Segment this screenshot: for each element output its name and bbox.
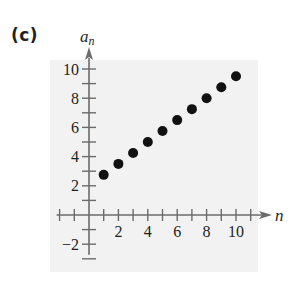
plot-background <box>50 60 258 272</box>
data-point <box>202 93 212 103</box>
x-tick-label: 8 <box>203 223 211 240</box>
y-tick-label: 10 <box>63 61 79 78</box>
x-axis-label: n <box>275 206 284 225</box>
x-tick-label: 10 <box>228 223 244 240</box>
y-axis-label-subscript: n <box>89 34 95 48</box>
y-axis-label: an <box>80 27 95 48</box>
x-tick-label: 6 <box>173 223 181 240</box>
data-point <box>216 82 226 92</box>
data-point <box>143 137 153 147</box>
x-tick-label: 4 <box>144 223 152 240</box>
plot-area: 246810 −2246810 an n <box>0 0 300 285</box>
y-axis-label-base: a <box>80 27 89 46</box>
y-tick-label: 4 <box>71 148 79 165</box>
y-tick-label: −2 <box>62 236 79 253</box>
y-tick-label: 2 <box>71 177 79 194</box>
x-tick-label: 2 <box>114 223 122 240</box>
y-tick-label: 8 <box>71 90 79 107</box>
data-point <box>187 104 197 114</box>
data-point <box>99 170 109 180</box>
data-point <box>172 115 182 125</box>
sequence-scatter-plot: (c) 246810 −2246810 an n <box>0 0 300 285</box>
y-tick-label: 6 <box>71 119 79 136</box>
data-point <box>128 148 138 158</box>
data-point <box>113 159 123 169</box>
data-point <box>158 126 168 136</box>
data-point <box>231 71 241 81</box>
